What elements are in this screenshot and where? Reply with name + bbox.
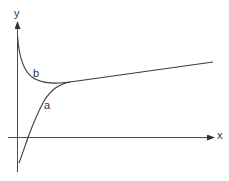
curve-b <box>18 36 71 83</box>
y-axis-label: y <box>14 8 20 19</box>
x-axis-label: x <box>217 130 223 141</box>
diagram-figure: y x b a <box>0 0 229 181</box>
curve-a-label: a <box>44 100 50 111</box>
curve-b-label: b <box>33 68 39 79</box>
curve-a <box>19 82 70 163</box>
asymptote-line <box>70 62 213 82</box>
diagram-canvas <box>0 0 229 181</box>
